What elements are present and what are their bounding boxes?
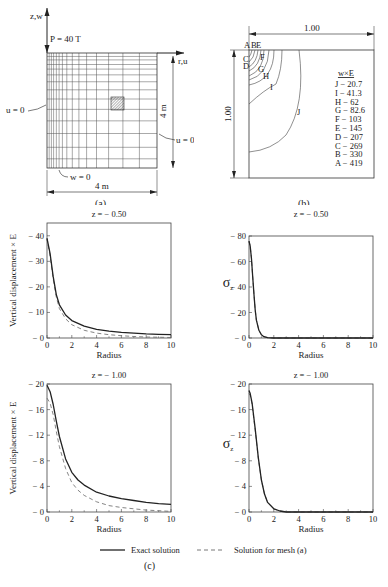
series-exact-line: [47, 238, 171, 334]
x-tick-label: 0: [45, 514, 49, 524]
y-tick-label: − 4: [235, 481, 247, 491]
series-mesh-line: [249, 241, 373, 338]
y-tick-label: − 8: [235, 456, 246, 466]
chart-bottom-left: z = − 1.000246810− 0− 4− 8− 12− 16− 20Ra…: [8, 370, 175, 534]
legend-title: w×E: [338, 68, 354, 78]
y-tick-label: − 0: [235, 333, 246, 343]
panel-a-mesh: z,w P = 40 T r,u 4 m u = 0 u = 0 w = 0 4…: [0, 0, 194, 205]
y-tick-label: − 8: [33, 456, 44, 466]
chart-title: z = − 0.50: [294, 209, 329, 219]
chart-title: z = − 1.00: [294, 370, 329, 380]
bc-bottom-label: w = 0: [70, 172, 91, 182]
contour-mark-I: I: [270, 82, 273, 92]
x-tick-label: 6: [119, 340, 123, 350]
y-tick-label: − 20: [29, 282, 44, 292]
contour-mark-D: D: [243, 61, 249, 71]
y-axis-label: Vertical displacement × E: [8, 401, 18, 494]
y-tick-label: − 10: [29, 307, 44, 317]
legend-exact-label: Exact solution: [131, 545, 181, 555]
contour-mark-H: H: [263, 71, 269, 81]
x-tick-label: 10: [167, 340, 176, 350]
dim-height-label: 4 m: [158, 104, 168, 118]
panel-b-contour: A B E C D F G H I J 1.00 1.00 w×EJ − 20.…: [194, 0, 388, 205]
x-tick-label: 10: [369, 340, 378, 350]
y-tick-label: − 0: [235, 507, 246, 517]
y-tick-label: − 0: [33, 333, 44, 343]
caption-c: (c): [144, 560, 155, 572]
contour-mark-E: E: [256, 40, 261, 50]
bc-right-label: u = 0: [176, 135, 194, 145]
y-tick-label: − 16: [29, 405, 44, 415]
mesh-grid: [47, 53, 157, 168]
x-tick-label: 2: [272, 340, 276, 350]
caption-a: (a): [95, 198, 106, 205]
contour-legend: w×EJ − 20.7I − 41.3H − 62G − 82.6F − 103…: [335, 68, 365, 168]
x-tick-label: 2: [70, 514, 74, 524]
chart-bottom-right: z = − 1.000246810− 0− 4− 8− 12− 16− 20Ra…: [223, 370, 378, 534]
y-tick-label: − 12: [231, 430, 246, 440]
chart-top-left: z = − 0.500246810− 0− 10− 20− 30− 40Radi…: [8, 209, 175, 360]
plot-frame: [47, 384, 171, 512]
y-tick-label: − 4: [33, 481, 45, 491]
y-tick-label: − 20: [231, 308, 246, 318]
y-axis-label: σz: [223, 275, 234, 292]
series-exact-line: [249, 241, 373, 338]
legend-entry-A: A − 419: [335, 158, 362, 168]
x-tick-label: 6: [119, 514, 123, 524]
hatched-element: [111, 97, 124, 110]
load-label: P = 40 T: [50, 34, 81, 44]
y-tick-label: − 30: [29, 256, 44, 266]
y-tick-label: − 0: [33, 507, 44, 517]
contour-mark-A: A: [244, 40, 251, 50]
chart-legend: Exact solution Solution for mesh (a): [100, 545, 307, 555]
y-tick-label: − 80: [231, 231, 246, 241]
x-tick-label: 0: [45, 340, 49, 350]
x-tick-label: 4: [296, 514, 301, 524]
x-tick-label: 4: [296, 340, 301, 350]
contour-mark-F: F: [260, 52, 265, 62]
series-exact-line: [249, 390, 373, 512]
series-exact-line: [47, 385, 171, 504]
x-axis-label: Radius: [298, 524, 323, 534]
x-tick-label: 2: [272, 514, 276, 524]
x-tick-label: 10: [167, 514, 176, 524]
y-tick-label: − 16: [231, 405, 246, 415]
chart-top-right: z = − 0.500246810− 0− 20− 40− 60− 80Radi…: [223, 209, 378, 360]
plot-frame: [47, 223, 171, 338]
contour-lines: [249, 50, 301, 152]
x-tick-label: 0: [247, 514, 251, 524]
dim-width-label: 4 m: [95, 181, 109, 191]
x-tick-label: 6: [321, 340, 325, 350]
dim-width-label-b: 1.00: [304, 23, 320, 33]
chart-title: z = − 1.00: [92, 370, 127, 380]
x-tick-label: 10: [369, 514, 378, 524]
y-tick-label: − 40: [29, 231, 44, 241]
dim-height-label-b: 1.00: [223, 106, 233, 122]
z-axis-arrow-icon: [45, 8, 50, 16]
y-axis-label: Vertical displacement × E: [8, 234, 18, 327]
x-axis-label: Radius: [298, 350, 323, 360]
x-axis-label: Radius: [96, 524, 121, 534]
x-tick-label: 6: [321, 514, 325, 524]
y-tick-label: − 12: [29, 430, 44, 440]
x-tick-label: 2: [70, 340, 74, 350]
series-mesh-line: [47, 238, 171, 337]
x-axis-label: Radius: [96, 350, 121, 360]
y-tick-label: − 20: [231, 379, 246, 389]
x-tick-label: 8: [144, 340, 148, 350]
r-axis-label: r,u: [178, 56, 188, 66]
load-arrow-icon: [45, 45, 50, 53]
legend-mesh-label: Solution for mesh (a): [234, 545, 307, 555]
x-tick-label: 8: [346, 514, 350, 524]
x-tick-label: 4: [94, 514, 99, 524]
y-tick-label: − 60: [231, 257, 246, 267]
contour-mark-J: J: [297, 107, 301, 117]
x-tick-label: 4: [94, 340, 99, 350]
z-axis-label: z,w: [30, 11, 43, 21]
plot-frame: [249, 236, 373, 338]
panel-c-charts: z = − 0.500246810− 0− 10− 20− 30− 40Radi…: [0, 205, 388, 587]
plot-frame: [249, 384, 373, 512]
y-tick-label: − 20: [29, 379, 44, 389]
r-axis-arrow-icon: [176, 51, 184, 56]
x-tick-label: 8: [346, 340, 350, 350]
